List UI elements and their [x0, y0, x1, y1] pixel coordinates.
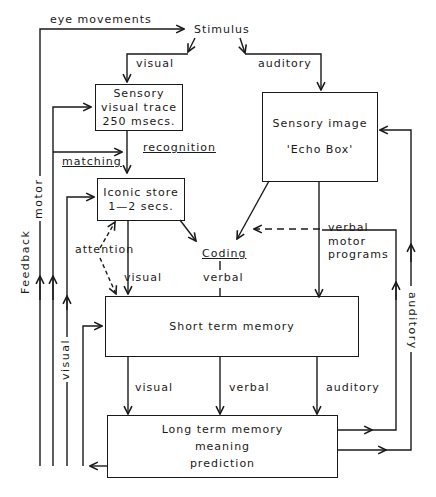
coding-label: Coding [202, 248, 246, 260]
motor-left-label: motor [33, 176, 45, 221]
eye-movements-label: eye movements [50, 14, 152, 26]
auditory-right-label: auditory [406, 290, 418, 352]
iconic-store-box: Iconic store 1—2 secs. [97, 178, 185, 221]
box-line: Iconic store [103, 186, 178, 200]
attention-dashed-down [100, 258, 116, 294]
sensory-visual-trace-box: Sensory visual trace 250 msecs. [95, 84, 183, 131]
ltm-stm-feedback-line [83, 326, 102, 466]
recognition-label: recognition [143, 142, 216, 154]
box-line: 'Echo Box' [287, 143, 354, 157]
auditory-input-label: auditory [258, 58, 312, 70]
echo-coding-line [237, 181, 269, 239]
stimulus-label: Stimulus [194, 24, 250, 36]
visual-input-label: visual [136, 58, 174, 70]
verbal-stm-ltm-label: verbal [229, 382, 270, 394]
visual-iconic-stm-label: visual [124, 272, 162, 284]
verbal-motor-label: verbal [328, 222, 369, 234]
attention-label: attention [75, 244, 134, 256]
box-line: Sensory [113, 87, 164, 101]
sensory-image-box: Sensory image 'Echo Box' [262, 92, 378, 182]
box-line: visual trace [101, 101, 177, 115]
iconic-coding-line [180, 220, 196, 241]
long-term-memory-box: Long term memory meaning prediction [107, 415, 338, 478]
motor-programs-label-1: motor [328, 236, 366, 248]
box-line: 1—2 secs. [108, 200, 173, 214]
box-line: 250 msecs. [103, 115, 176, 129]
box-line: meaning [195, 440, 250, 454]
stimulus-visual-stroke [188, 38, 195, 52]
motor-programs-label-2: programs [328, 249, 389, 261]
box-line: Sensory image [273, 117, 368, 131]
box-line: prediction [190, 457, 255, 471]
auditory-stm-ltm-label: auditory [326, 382, 380, 394]
box-line: Long term memory [162, 423, 284, 437]
short-term-memory-box: Short term memory [105, 296, 359, 357]
verbal-coding-label: verbal [203, 272, 244, 284]
visual-feedback-line [67, 197, 94, 466]
stimulus-auditory-stroke [240, 38, 245, 53]
matching-label: matching [62, 156, 122, 168]
feedback-label: Feedback [20, 228, 32, 296]
visual-left-label: visual [60, 337, 72, 382]
visual-stm-ltm-label: visual [135, 382, 173, 394]
box-line: Short term memory [169, 320, 295, 334]
